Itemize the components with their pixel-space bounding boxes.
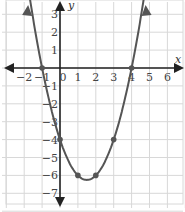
x-tick-label: 5	[146, 71, 153, 84]
y-tick-label: 1	[51, 44, 58, 57]
data-point	[39, 65, 45, 71]
x-axis-label: x	[175, 53, 182, 66]
data-point	[57, 137, 63, 143]
y-tick-label: 2	[51, 26, 58, 39]
y-axis-label: y	[67, 0, 75, 12]
y-tick-label: −7	[42, 187, 58, 200]
y-tick-label: −6	[42, 169, 58, 182]
data-point	[111, 137, 117, 143]
parabola-graph: −2−10123456321−1−2−3−4−5−6−7xy	[0, 0, 185, 212]
data-point	[93, 173, 99, 179]
data-point	[129, 65, 135, 71]
x-tick-label: 3	[110, 71, 117, 84]
y-tick-label: −5	[42, 152, 58, 165]
x-tick-label: 1	[74, 71, 81, 84]
x-tick-label: 0	[60, 71, 67, 84]
coordinate-plane: −2−10123456321−1−2−3−4−5−6−7xy	[0, 0, 185, 212]
y-tick-label: 3	[51, 8, 58, 21]
y-tick-label: −4	[42, 134, 58, 147]
x-tick-label: −2	[16, 71, 32, 84]
data-point	[75, 173, 81, 179]
x-tick-label: 2	[92, 71, 99, 84]
x-tick-label: 6	[164, 71, 171, 84]
